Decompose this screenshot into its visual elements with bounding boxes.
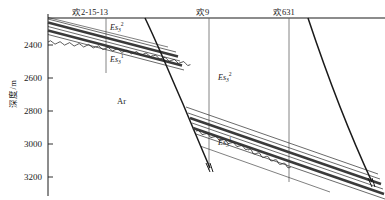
well-trace-lines: [106, 18, 289, 182]
unit-sub: 3: [226, 77, 229, 83]
unit-sup: 2: [121, 21, 124, 27]
bed-set-right: [186, 107, 385, 199]
unit-sub: 3: [118, 59, 121, 65]
unit-label-es3-1-left: Es31: [110, 55, 124, 64]
unit-sup: 2: [229, 71, 232, 77]
tick-label-2800: 2800: [8, 106, 42, 116]
unit-label-es3-2-center: Es32: [218, 73, 232, 82]
unit-sub: 3: [226, 142, 229, 148]
tick-label-2400: 2400: [8, 40, 42, 50]
unit-base: Es: [218, 73, 226, 82]
unit-sup: 1: [121, 53, 124, 59]
tick-label-2600: 2600: [8, 73, 42, 83]
unit-label-es3-1-lower: Es31: [218, 138, 232, 147]
unit-label-ar-basement: Ar: [117, 96, 126, 106]
tick-label-3000: 3000: [8, 139, 42, 149]
fault-1: [145, 18, 213, 172]
geological-cross-section-figure: 深度/m 2400 2600 2800 3000 3200 欢2-15-13 欢…: [0, 0, 385, 200]
tick-label-3200: 3200: [8, 172, 42, 182]
unit-label-es3-2-left: Es32: [110, 23, 124, 32]
well-label-huan631: 欢631: [273, 5, 295, 17]
well-label-huan2-15-13: 欢2-15-13: [72, 5, 108, 17]
cross-section-canvas: [0, 0, 385, 200]
unit-base: Es: [110, 55, 118, 64]
unit-base: Es: [110, 23, 118, 32]
unit-sup: 1: [229, 136, 232, 142]
unit-base: Es: [218, 138, 226, 147]
well-label-huan9: 欢9: [196, 5, 209, 17]
unit-sub: 3: [118, 27, 121, 33]
